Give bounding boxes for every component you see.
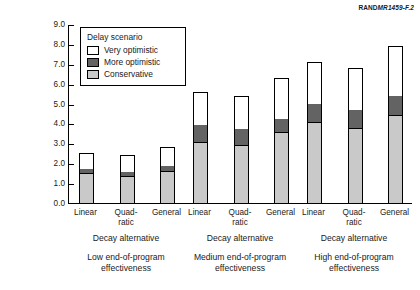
bar-segment-very-optimistic (388, 46, 403, 96)
group-title-line2: effectiveness (289, 263, 419, 274)
x-axis-tick-label-line2: ratic (104, 218, 148, 228)
x-axis-tick-label: Linear (64, 208, 108, 218)
group-title-high: High end-of-programeffectiveness (289, 252, 419, 273)
bar-segment-very-optimistic (234, 96, 249, 130)
y-axis-tick-label: 5.0 (41, 100, 69, 110)
y-axis-tick-label: 3.0 (41, 139, 69, 149)
x-axis-tick-label: Linear (178, 208, 222, 218)
bar-segment-more-optimistic (307, 104, 322, 124)
y-axis-tick-mark (69, 85, 74, 86)
y-axis-tick-mark (69, 124, 74, 125)
bar-segment-very-optimistic (120, 155, 135, 172)
bar-segment-conservative (79, 174, 94, 203)
legend-swatch-more-optimistic (87, 58, 99, 67)
group-title-line1: Low end-of-program (61, 252, 191, 263)
legend-swatch-very-optimistic (87, 46, 99, 55)
y-axis-tick-label: 1.0 (41, 179, 69, 189)
x-axis-tick-label: Quad-ratic (104, 208, 148, 227)
stacked-bar[interactable] (274, 78, 289, 203)
bar-segment-conservative (160, 172, 175, 203)
bar-segment-very-optimistic (193, 92, 208, 126)
x-axis-tick-label: Linear (292, 208, 336, 218)
legend-title: Delay scenario (87, 32, 180, 42)
group-title-line1: Medium end-of-program (175, 252, 305, 263)
x-axis-tick-label-line1: Quad- (104, 208, 148, 218)
group-axis-label-low: Decay alternative (66, 233, 186, 243)
group-axis-label-high: Decay alternative (294, 233, 414, 243)
x-axis-tick-label-line1: Linear (64, 208, 108, 218)
group-title-line2: effectiveness (175, 263, 305, 274)
bar-group-medium (193, 25, 289, 203)
x-axis-tick-label: Quad-ratic (332, 208, 376, 227)
x-axis-tick-label-line2: ratic (332, 218, 376, 228)
stacked-bar[interactable] (307, 62, 322, 203)
bar-segment-conservative (120, 177, 135, 203)
stacked-bar[interactable] (193, 92, 208, 203)
y-axis-tick-label: 9.0 (41, 20, 69, 30)
legend-label-more-optimistic: More optimistic (104, 57, 160, 67)
x-axis-tick-label-line1: Linear (178, 208, 222, 218)
bar-segment-conservative (274, 133, 289, 203)
group-title-line2: effectiveness (61, 263, 191, 274)
y-axis-tick-mark (69, 25, 74, 26)
group-title-line1: High end-of-program (289, 252, 419, 263)
y-axis-tick-mark (69, 105, 74, 106)
stacked-bar[interactable] (120, 155, 135, 203)
y-axis-tick-mark (69, 184, 74, 185)
source-prefix: RAND (358, 4, 377, 11)
legend-item-more-optimistic: More optimistic (87, 56, 180, 68)
x-axis-tick-label-line1: Linear (292, 208, 336, 218)
bar-segment-more-optimistic (274, 119, 289, 133)
bar-segment-very-optimistic (160, 147, 175, 166)
y-axis-tick-label: 2.0 (41, 159, 69, 169)
legend-swatch-conservative (87, 70, 99, 79)
y-axis-tick-label: 8.0 (41, 40, 69, 50)
legend-item-conservative: Conservative (87, 68, 180, 80)
stacked-bar[interactable] (79, 153, 94, 203)
x-axis-tick-label-line1: Quad- (332, 208, 376, 218)
bar-segment-conservative (307, 123, 322, 203)
bar-segment-more-optimistic (234, 129, 249, 146)
stacked-bar[interactable] (234, 96, 249, 203)
bar-segment-more-optimistic (193, 125, 208, 143)
x-axis-tick-label-line1: Quad- (218, 208, 262, 218)
bar-segment-more-optimistic (388, 96, 403, 116)
bar-segment-very-optimistic (79, 153, 94, 169)
bar-segment-conservative (234, 146, 249, 203)
x-axis-tick-label: General (373, 208, 417, 218)
bar-segment-conservative (388, 116, 403, 204)
legend-item-very-optimistic: Very optimistic (87, 44, 180, 56)
y-axis-tick-label: 7.0 (41, 60, 69, 70)
stacked-bar[interactable] (348, 68, 363, 203)
stacked-bar[interactable] (388, 46, 403, 203)
legend-label-conservative: Conservative (104, 69, 153, 79)
stacked-bar[interactable] (160, 147, 175, 203)
legend-label-very-optimistic: Very optimistic (104, 45, 158, 55)
y-axis-tick-mark (69, 65, 74, 66)
bar-segment-conservative (193, 143, 208, 203)
legend: Delay scenario Very optimistic More opti… (80, 27, 186, 86)
bar-group-high (307, 25, 403, 203)
y-axis-tick-mark (69, 164, 74, 165)
x-axis-tick-label: Quad-ratic (218, 208, 262, 227)
y-axis-tick-mark (69, 144, 74, 145)
figure-container: RANDMR1459-F.2 Percentage reduction in p… (0, 0, 420, 290)
bar-segment-very-optimistic (307, 62, 322, 104)
group-title-medium: Medium end-of-programeffectiveness (175, 252, 305, 273)
bar-segment-conservative (348, 129, 363, 203)
bar-segment-more-optimistic (348, 110, 363, 130)
group-axis-label-medium: Decay alternative (180, 233, 300, 243)
x-axis-tick-label-line2: ratic (218, 218, 262, 228)
group-title-low: Low end-of-programeffectiveness (61, 252, 191, 273)
y-axis-tick-mark (69, 45, 74, 46)
y-axis-tick-label: 4.0 (41, 119, 69, 129)
bar-segment-very-optimistic (348, 68, 363, 110)
y-axis-tick-label: 6.0 (41, 80, 69, 90)
x-axis-tick-label-line1: General (373, 208, 417, 218)
bar-segment-very-optimistic (274, 78, 289, 120)
source-document-number: MR1459-F.2 (378, 4, 414, 11)
source-identifier: RANDMR1459-F.2 (358, 4, 414, 11)
